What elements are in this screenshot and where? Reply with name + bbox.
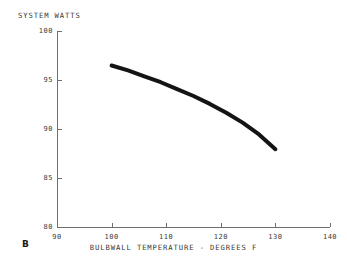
chart-figure: SYSTEM WATTS 100 95 90 85 80 90: [0, 0, 347, 266]
x-tick-label: 130: [268, 233, 282, 241]
plot-area: 100 95 90 85 80 90 100 110: [57, 31, 330, 228]
x-tick-label: 120: [214, 233, 228, 241]
x-tick-label: 100: [105, 233, 119, 241]
y-tick-label: 90: [44, 125, 53, 133]
x-axis-title: BULBWALL TEMPERATURE - DEGREES F: [0, 243, 347, 252]
series-line: [112, 65, 276, 149]
y-tick-label: 100: [39, 27, 53, 35]
figure-marker: B: [22, 239, 29, 249]
y-tick-label: 80: [44, 223, 53, 231]
y-axis-title: SYSTEM WATTS: [18, 11, 81, 20]
y-tick-label: 95: [44, 76, 53, 84]
y-tick-label: 85: [44, 174, 53, 182]
data-curve-layer: [57, 31, 330, 228]
x-tick-label: 110: [159, 233, 173, 241]
x-tick-label: 90: [52, 233, 61, 241]
x-tick-label: 140: [323, 233, 337, 241]
